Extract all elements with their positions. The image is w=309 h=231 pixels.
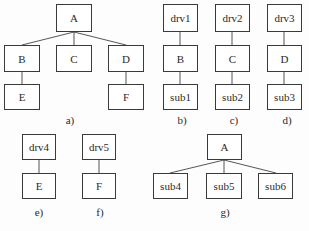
node-f-F: F: [82, 173, 116, 199]
node-label: drv3: [274, 12, 294, 24]
node-label: sub2: [222, 91, 243, 103]
node-label: sub5: [214, 180, 235, 192]
node-a-A: A: [56, 4, 92, 32]
node-label: sub3: [274, 91, 295, 103]
node-label: F: [96, 180, 102, 192]
caption-g: g): [220, 206, 229, 218]
node-label: drv4: [29, 141, 49, 153]
node-label: drv2: [222, 12, 242, 24]
node-label: sub4: [160, 180, 181, 192]
node-label: drv5: [89, 141, 109, 153]
node-g-sub5: sub5: [206, 173, 242, 199]
caption-f: f): [96, 206, 103, 218]
node-label: A: [221, 141, 229, 153]
node-label: E: [19, 91, 26, 103]
node-label: sub6: [265, 180, 286, 192]
node-label: D: [122, 53, 130, 65]
node-label: C: [70, 53, 77, 65]
node-b-drv1: drv1: [163, 4, 198, 32]
caption-b: b): [177, 114, 186, 126]
node-d-sub3: sub3: [267, 84, 302, 110]
node-label: F: [123, 91, 129, 103]
caption-a: a): [66, 114, 75, 126]
node-c-drv2: drv2: [215, 4, 250, 32]
node-b-sub1: sub1: [163, 84, 198, 110]
diagram-figure: A B C D E F a) drv1 B sub1 b) drv2 C sub…: [0, 0, 309, 231]
node-label: D: [281, 53, 289, 65]
node-label: drv1: [170, 12, 190, 24]
node-label: E: [36, 180, 43, 192]
node-d-drv3: drv3: [267, 4, 302, 32]
node-a-D: D: [108, 45, 144, 72]
node-f-drv5: drv5: [82, 134, 116, 160]
node-g-sub6: sub6: [258, 173, 293, 199]
node-a-F: F: [108, 84, 144, 110]
node-label: B: [18, 53, 25, 65]
node-a-E: E: [4, 84, 40, 110]
node-label: sub1: [170, 91, 191, 103]
node-label: B: [177, 53, 184, 65]
node-label: A: [70, 12, 78, 24]
caption-c: c): [230, 114, 239, 126]
caption-e: e): [35, 206, 44, 218]
node-label: C: [229, 53, 236, 65]
node-c-sub2: sub2: [215, 84, 250, 110]
node-g-sub4: sub4: [153, 173, 188, 199]
node-e-E: E: [22, 173, 56, 199]
node-g-A: A: [207, 134, 242, 160]
caption-d: d): [282, 114, 291, 126]
node-d-D: D: [267, 45, 302, 72]
node-a-B: B: [4, 45, 40, 72]
node-c-C: C: [215, 45, 250, 72]
node-b-B: B: [163, 45, 198, 72]
node-a-C: C: [56, 45, 92, 72]
node-e-drv4: drv4: [22, 134, 56, 160]
